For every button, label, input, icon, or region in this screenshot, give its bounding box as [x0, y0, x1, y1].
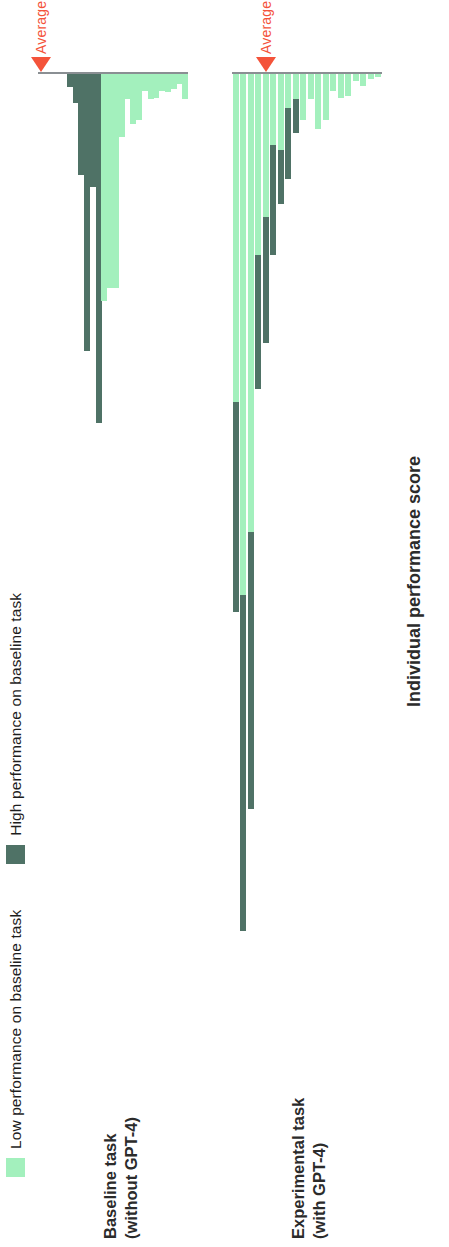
bar-segment-high	[233, 402, 239, 612]
bar-segment-low	[353, 74, 359, 81]
bar-row	[240, 39, 246, 1079]
legend-swatch-high-icon	[6, 845, 25, 864]
bar-row	[182, 39, 188, 1079]
panel-experimental-task: Average	[232, 39, 382, 1079]
rotated-figure-wrapper: Low performance on baseline task High pe…	[0, 0, 449, 1247]
bar-segment-low	[368, 74, 374, 79]
bar-row	[285, 39, 291, 1079]
x-axis-title: Individual performance score	[404, 456, 425, 707]
bar-row	[263, 39, 269, 1079]
bar-segment-low	[323, 74, 329, 120]
bar-segment-low	[345, 74, 351, 96]
average-label-baseline: Average	[33, 1, 49, 54]
bar-segment-low	[330, 74, 336, 91]
bar-segment-low	[300, 74, 306, 120]
bar-row	[270, 39, 276, 1079]
bar-segment-low	[338, 74, 344, 98]
bar-segment-low	[360, 74, 366, 86]
average-triangle-icon	[256, 57, 276, 72]
bar-row	[315, 39, 321, 1079]
bar-row	[360, 39, 366, 1079]
bar-row	[330, 39, 336, 1079]
bar-row	[338, 39, 344, 1079]
group-label-baseline: Baseline task (without GPT-4)	[100, 1117, 142, 1239]
bar-row	[323, 39, 329, 1079]
bar-segment-low	[315, 74, 321, 129]
legend-swatch-low-icon	[6, 1158, 25, 1177]
legend-item-low: Low performance on baseline task	[6, 910, 25, 1177]
bar-segment-low	[308, 74, 314, 99]
group-label-experimental: Experimental task (with GPT-4)	[288, 1098, 330, 1239]
legend-label-low: Low performance on baseline task	[7, 910, 25, 1149]
bar-segment-high	[263, 217, 269, 343]
bars-baseline	[38, 39, 188, 1079]
bar-segment-low	[182, 74, 188, 99]
average-triangle-icon	[31, 57, 51, 72]
panel-baseline-task: Average	[38, 39, 188, 1079]
chart-figure: Low performance on baseline task High pe…	[0, 0, 449, 1247]
bar-row	[368, 39, 374, 1079]
legend-label-high: High performance on baseline task	[7, 593, 25, 836]
bar-row	[300, 39, 306, 1079]
bar-segment-high	[240, 595, 246, 931]
bar-segment-high	[248, 532, 254, 809]
bar-row	[248, 39, 254, 1079]
average-label-experimental: Average	[258, 1, 274, 54]
bars-experimental	[232, 39, 382, 1079]
bar-segment-low	[375, 74, 381, 77]
chart-legend: Low performance on baseline task High pe…	[6, 593, 25, 1177]
bar-segment-high	[270, 145, 276, 254]
bar-row	[293, 39, 299, 1079]
bar-row	[255, 39, 261, 1079]
bar-segment-high	[285, 108, 291, 179]
bar-segment-high	[293, 99, 299, 133]
bar-row	[278, 39, 284, 1079]
bar-row	[353, 39, 359, 1079]
legend-item-high: High performance on baseline task	[6, 593, 25, 864]
bar-row	[233, 39, 239, 1079]
bar-segment-high	[255, 255, 261, 389]
bar-row	[375, 39, 381, 1079]
bar-row	[345, 39, 351, 1079]
bar-segment-high	[278, 150, 284, 205]
bar-row	[308, 39, 314, 1079]
average-marker-experimental: Average	[256, 1, 276, 72]
average-marker-baseline: Average	[31, 1, 51, 72]
